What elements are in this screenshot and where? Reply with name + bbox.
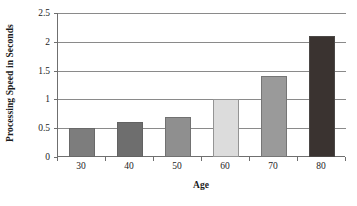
bar [213,99,240,157]
y-axis-tick-label: 1.5 [38,66,50,76]
x-axis-tick-label: 30 [76,161,86,171]
bar [117,122,144,157]
x-axis-tick-label: 50 [172,161,182,171]
x-axis-tick-label: 40 [124,161,134,171]
x-axis-tick-label: 80 [316,161,326,171]
x-axis-tick-label: 70 [268,161,278,171]
processing-speed-bar-chart: Processing Speed in Seconds 00.511.522.5… [0,0,357,206]
bar [69,128,96,157]
y-axis-tick-labels: 00.511.522.5 [22,0,54,206]
y-axis-tick-label: 0 [45,152,50,162]
y-axis-tick-label: 1 [45,94,50,104]
bar [261,76,288,157]
y-axis-tick-label: 0.5 [38,123,50,133]
bars-group [58,13,346,157]
x-axis-tick-mark [345,157,346,161]
x-axis-tick-labels: 304050607080 [57,161,345,179]
x-axis-title: Age [57,180,345,190]
bar [165,117,192,157]
y-axis-tick-label: 2 [45,37,50,47]
bar [309,36,336,157]
y-axis-title-label: Processing Speed in Seconds [5,24,15,142]
x-axis-tick-label: 60 [220,161,230,171]
plot-area [57,13,345,157]
y-axis-tick-label: 2.5 [38,8,50,18]
y-axis-title: Processing Speed in Seconds [0,0,20,165]
